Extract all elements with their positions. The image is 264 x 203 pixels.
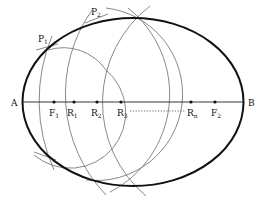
- label-b: B: [248, 98, 255, 108]
- label-rn: Rn: [187, 108, 198, 119]
- point-rn: [189, 100, 192, 103]
- label-r2: R2: [91, 108, 102, 119]
- label-f1: F1: [49, 108, 59, 119]
- point-f2: [213, 100, 216, 103]
- label-r1: R1: [67, 108, 78, 119]
- point-f1: [52, 100, 55, 103]
- label-r3: R3: [117, 108, 128, 119]
- point-r2: [95, 100, 98, 103]
- arc-f2-r2: [65, 10, 106, 195]
- point-r3: [119, 100, 122, 103]
- arc-f1-r2: [86, 8, 183, 181]
- ellipse-construction-diagram: A B F1 R1 R2 R3 Rn F2 P1 P2: [0, 0, 264, 203]
- label-f2: F2: [211, 108, 221, 119]
- arc-f2-r3: [103, 6, 150, 196]
- label-p1: P1: [38, 34, 48, 45]
- label-a: A: [10, 98, 18, 108]
- construction-arcs: [34, 6, 183, 196]
- point-r1: [72, 100, 75, 103]
- label-p2: P2: [91, 7, 101, 18]
